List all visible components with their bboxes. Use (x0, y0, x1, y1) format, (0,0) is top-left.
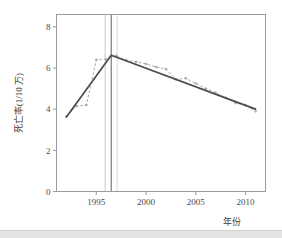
data-point-marker (155, 66, 157, 68)
y-tick-label: 4 (46, 104, 51, 114)
data-point-marker (145, 63, 147, 65)
joinpoint-regression-chart: 02468 1995200020052010 年份 死亡率(1/10 万) (0, 0, 282, 238)
chart-figure: 02468 1995200020052010 年份 死亡率(1/10 万) (0, 0, 282, 238)
x-tick-label: 2010 (237, 197, 256, 207)
fitted-regression-line (66, 55, 255, 117)
bottom-band (0, 230, 282, 238)
x-axis-tick-labels: 1995200020052010 (87, 197, 255, 207)
plot-frame (57, 15, 266, 192)
y-axis-tick-labels: 02468 (46, 22, 51, 197)
x-axis-title: 年份 (223, 216, 241, 227)
joinpoint-vertical-lines (105, 15, 117, 191)
y-tick-label: 8 (46, 22, 51, 32)
x-axis-ticks (96, 192, 245, 196)
x-tick-label: 1995 (87, 197, 106, 207)
y-axis-title: 死亡率(1/10 万) (13, 73, 24, 133)
observed-data-line (66, 56, 255, 117)
y-tick-label: 0 (46, 187, 51, 197)
y-tick-label: 2 (46, 146, 51, 156)
data-point-marker (195, 83, 197, 85)
data-point-marker (255, 110, 257, 112)
y-tick-label: 6 (46, 63, 51, 73)
y-axis-ticks (53, 27, 57, 192)
x-tick-label: 2000 (137, 197, 156, 207)
x-tick-label: 2005 (187, 197, 206, 207)
observed-data-markers (66, 55, 257, 118)
